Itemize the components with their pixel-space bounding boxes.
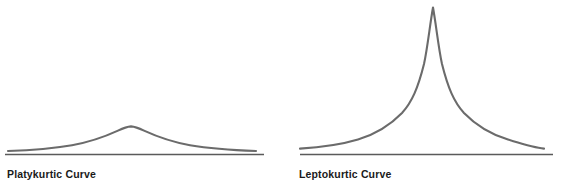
leptokurtic-curve <box>300 8 544 149</box>
kurtosis-figure: Platykurtic Curve Leptokurtic Curve <box>0 0 567 185</box>
platykurtic-curve <box>8 126 256 151</box>
platykurtic-plot <box>0 0 284 162</box>
leptokurtic-panel: Leptokurtic Curve <box>284 0 567 185</box>
leptokurtic-caption: Leptokurtic Curve <box>299 168 391 180</box>
leptokurtic-plot <box>284 0 567 162</box>
platykurtic-panel: Platykurtic Curve <box>0 0 284 185</box>
platykurtic-caption: Platykurtic Curve <box>7 168 96 180</box>
